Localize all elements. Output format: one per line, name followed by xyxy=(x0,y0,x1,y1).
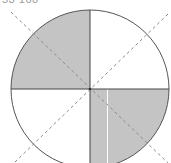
circle-diagram xyxy=(0,0,171,163)
center-point xyxy=(89,88,92,91)
